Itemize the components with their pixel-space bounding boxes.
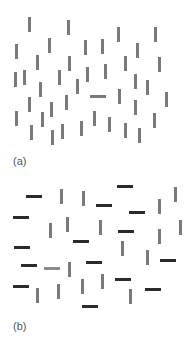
horizontal-bar: [73, 240, 89, 243]
horizontal-bar: [115, 278, 131, 281]
vertical-bar: [129, 289, 132, 304]
vertical-bar: [66, 217, 69, 232]
vertical-bar: [99, 220, 102, 235]
horizontal-bar: [145, 288, 161, 291]
vertical-bar: [146, 250, 149, 265]
horizontal-bar: [82, 305, 98, 308]
panel-b: (b): [0, 0, 189, 344]
vertical-bar: [101, 274, 104, 289]
horizontal-bar: [13, 285, 29, 288]
panel-b-label: (b): [13, 320, 26, 332]
horizontal-bar: [14, 246, 30, 249]
vertical-bar: [60, 189, 63, 204]
vertical-bar: [82, 191, 85, 206]
vertical-bar: [179, 220, 182, 235]
vertical-bar: [36, 288, 39, 303]
horizontal-bar: [129, 211, 145, 214]
horizontal-bar: [96, 204, 112, 207]
horizontal-bar: [118, 230, 134, 233]
horizontal-bar: [26, 195, 42, 198]
vertical-bar: [68, 262, 71, 277]
horizontal-bar: [160, 259, 176, 262]
target-horizontal-bar: [44, 267, 60, 270]
horizontal-bar: [13, 216, 29, 219]
horizontal-bar: [21, 264, 37, 267]
vertical-bar: [158, 229, 161, 244]
vertical-bar: [174, 187, 177, 202]
vertical-bar: [57, 284, 60, 299]
vertical-bar: [49, 223, 52, 238]
vertical-bar: [121, 241, 124, 256]
vertical-bar: [158, 199, 161, 214]
horizontal-bar: [117, 185, 133, 188]
vertical-bar: [81, 279, 84, 294]
horizontal-bar: [86, 261, 102, 264]
